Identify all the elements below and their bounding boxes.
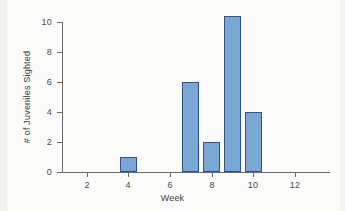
y-axis-title: # of Juveniles Sighted	[22, 22, 32, 172]
y-tick-4	[57, 112, 62, 113]
x-tick-10	[253, 172, 254, 177]
y-tick-2	[57, 142, 62, 143]
y-axis-line	[62, 22, 63, 173]
y-tick-label-0: 0	[30, 167, 52, 177]
bar-week-9	[224, 16, 241, 172]
y-tick-6	[57, 82, 62, 83]
y-tick-8	[57, 52, 62, 53]
chart-figure: 0 2 4 6 8 10 2 4 6 8 10 12 Week # of Juv…	[0, 0, 345, 211]
x-axis-title: Week	[0, 193, 345, 203]
y-tick-0	[57, 172, 62, 173]
y-tick-label-8: 8	[30, 47, 52, 57]
y-tick-label-2: 2	[30, 137, 52, 147]
x-tick-12	[295, 172, 296, 177]
y-tick-10	[57, 22, 62, 23]
x-tick-2	[87, 172, 88, 177]
x-tick-4	[128, 172, 129, 177]
x-tick-label-6: 6	[158, 180, 182, 190]
bar-week-10	[245, 112, 262, 172]
plot-area: 0 2 4 6 8 10 2 4 6 8 10 12 Week # of Juv…	[0, 0, 345, 211]
x-tick-label-4: 4	[116, 180, 140, 190]
y-tick-label-6: 6	[30, 77, 52, 87]
x-tick-label-10: 10	[241, 180, 265, 190]
x-tick-label-12: 12	[283, 180, 307, 190]
y-tick-label-4: 4	[30, 107, 52, 117]
x-axis-line	[62, 172, 330, 173]
x-tick-6	[170, 172, 171, 177]
x-tick-label-8: 8	[200, 180, 224, 190]
x-tick-label-2: 2	[75, 180, 99, 190]
bar-week-4	[120, 157, 137, 172]
bar-week-7	[182, 82, 199, 172]
x-tick-8	[212, 172, 213, 177]
y-tick-label-10: 10	[30, 17, 52, 27]
bar-week-8	[203, 142, 220, 172]
